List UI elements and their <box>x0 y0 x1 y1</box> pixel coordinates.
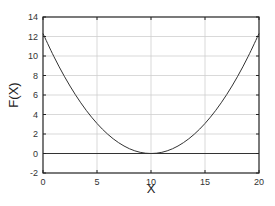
y-tick-label: -2 <box>30 168 38 178</box>
y-tick-label: 8 <box>33 71 38 81</box>
y-tick-label: 14 <box>28 12 38 22</box>
y-tick-label: 2 <box>33 129 38 139</box>
y-tick-label: 4 <box>33 110 38 120</box>
x-tick-label: 15 <box>200 177 210 187</box>
y-tick-label: 10 <box>28 51 38 61</box>
y-tick-label: 0 <box>33 149 38 159</box>
y-tick-label: 6 <box>33 90 38 100</box>
y-tick-label: 12 <box>28 32 38 42</box>
y-axis-label: F(X) <box>6 82 21 107</box>
x-axis-label: X <box>147 181 156 196</box>
line-chart: 05101520 -202468101214 X F(X) <box>0 0 275 206</box>
x-tick-label: 0 <box>40 177 45 187</box>
x-tick-label: 5 <box>94 177 99 187</box>
y-tick-labels: -202468101214 <box>28 12 38 178</box>
x-tick-label: 20 <box>254 177 264 187</box>
